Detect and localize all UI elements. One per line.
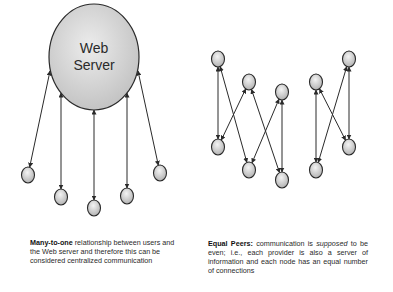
- client-node: [22, 167, 35, 183]
- client-node: [121, 188, 134, 204]
- caption-bold-equal-peers: Equal Peers:: [208, 239, 253, 248]
- peer-node: [276, 172, 289, 188]
- peer-node: [310, 74, 323, 90]
- peer-node: [243, 74, 256, 90]
- peer-node: [243, 162, 256, 178]
- client-node: [88, 200, 101, 216]
- client-server-link: [138, 71, 158, 165]
- peer-node: [212, 139, 225, 155]
- peer-node: [276, 84, 289, 100]
- peer-link: [221, 89, 245, 140]
- client-server-link: [30, 71, 50, 167]
- peer-node: [343, 139, 356, 155]
- peer-nodes: [212, 51, 356, 188]
- client-node: [154, 165, 167, 181]
- peer-link: [252, 99, 279, 163]
- web-server-label-line1: Web: [80, 40, 109, 56]
- peer-links: [218, 67, 349, 173]
- peer-node: [212, 51, 225, 67]
- peer-node: [343, 51, 356, 67]
- client-node: [55, 189, 68, 205]
- web-server-label-line2: Server: [73, 57, 115, 73]
- peer-node: [310, 162, 323, 178]
- equal-peers-caption: Equal Peers: communication is supposed t…: [208, 239, 368, 275]
- caption-text-pre: communication is: [253, 239, 316, 248]
- centralized-caption: Many-to-one relationship between users a…: [30, 238, 180, 265]
- caption-bold-many-to-one: Many-to-one: [30, 238, 73, 247]
- caption-italic-supposed: supposed: [316, 239, 347, 248]
